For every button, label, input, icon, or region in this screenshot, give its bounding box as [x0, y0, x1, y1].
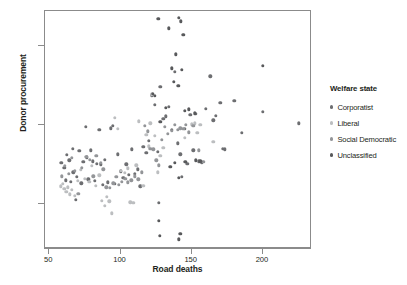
data-point — [77, 192, 80, 195]
data-point — [153, 94, 156, 97]
data-point — [105, 195, 108, 198]
data-point — [70, 156, 73, 159]
data-point — [189, 113, 192, 116]
data-point — [180, 175, 183, 178]
data-point — [80, 166, 83, 169]
data-point — [63, 164, 66, 167]
data-point — [159, 154, 162, 157]
data-point — [183, 109, 186, 112]
legend-item-unclassified[interactable]: Unclassified — [330, 147, 407, 163]
data-point — [107, 200, 110, 203]
data-point — [106, 181, 109, 184]
data-point — [137, 119, 140, 122]
data-point — [60, 174, 63, 177]
data-point — [116, 127, 119, 130]
data-point — [69, 180, 72, 183]
data-point — [233, 99, 236, 102]
x-axis-tick-mark — [120, 249, 121, 254]
data-point — [82, 160, 85, 163]
data-point — [108, 186, 111, 189]
data-point — [134, 163, 137, 166]
data-point — [73, 169, 76, 172]
data-point — [196, 131, 199, 134]
legend-title: Welfare state — [330, 84, 407, 93]
data-point — [71, 147, 74, 150]
data-point — [261, 64, 264, 67]
data-point — [115, 175, 118, 178]
data-point — [179, 20, 182, 23]
legend-item-liberal[interactable]: Liberal — [330, 115, 407, 131]
data-point — [94, 184, 97, 187]
data-point — [65, 153, 68, 156]
x-axis-title: Road deaths — [44, 264, 311, 274]
data-point — [156, 171, 159, 174]
legend-item-corporatist[interactable]: Corporatist — [330, 99, 407, 115]
data-point — [179, 152, 182, 155]
legend-item-social-democratic[interactable]: Social Democratic — [330, 131, 407, 147]
data-point — [201, 160, 204, 163]
legend-item-label: Social Democratic — [337, 135, 396, 144]
data-point — [137, 178, 140, 181]
data-point — [152, 148, 155, 151]
data-point — [117, 183, 120, 186]
data-point — [214, 114, 217, 117]
x-axis-tick-label: 150 — [171, 255, 211, 264]
data-point — [173, 70, 176, 73]
data-point — [130, 148, 133, 151]
data-point — [184, 123, 187, 126]
data-point — [110, 211, 113, 214]
data-point — [153, 134, 156, 137]
data-point — [89, 149, 92, 152]
data-point — [197, 149, 200, 152]
data-point — [180, 68, 183, 71]
data-point — [157, 219, 160, 222]
data-point — [80, 182, 83, 185]
data-point — [68, 193, 71, 196]
data-point — [75, 175, 78, 178]
legend-dot-icon — [330, 105, 333, 108]
data-point — [211, 119, 214, 122]
x-axis-tick-label: 50 — [28, 255, 68, 264]
data-point — [261, 110, 264, 113]
data-point — [140, 171, 143, 174]
data-point — [84, 125, 87, 128]
y-axis-tick-mark — [38, 45, 44, 46]
data-point — [183, 136, 186, 139]
legend: Welfare state CorporatistLiberalSocial D… — [330, 84, 407, 163]
data-point — [167, 105, 170, 108]
data-point — [92, 174, 95, 177]
data-point — [223, 148, 226, 151]
data-point — [177, 237, 180, 240]
data-point — [159, 85, 162, 88]
data-point — [111, 124, 114, 127]
data-point — [124, 177, 127, 180]
data-point — [91, 160, 94, 163]
legend-dot-icon — [330, 153, 333, 156]
data-point — [176, 141, 179, 144]
data-point — [297, 122, 300, 125]
data-point — [164, 115, 167, 118]
data-point — [66, 186, 69, 189]
data-point — [162, 146, 165, 149]
data-point — [67, 172, 70, 175]
scatter-plot-figure: 102030 50100150200 Donor procurement Roa… — [0, 0, 407, 285]
data-point — [209, 75, 212, 78]
data-point — [142, 145, 145, 148]
data-point — [156, 150, 159, 153]
data-point — [144, 133, 147, 136]
data-point — [64, 178, 67, 181]
data-point — [116, 152, 119, 155]
data-point — [167, 27, 170, 30]
data-point — [157, 201, 160, 204]
data-point — [173, 123, 176, 126]
data-point — [125, 163, 128, 166]
data-point — [73, 194, 76, 197]
data-point — [179, 232, 182, 235]
data-point — [129, 178, 132, 181]
legend-dot-icon — [330, 121, 333, 124]
y-axis-tick-mark — [38, 124, 44, 125]
x-axis-tick-label: 100 — [100, 255, 140, 264]
data-point — [187, 130, 190, 133]
x-axis-line — [44, 248, 311, 249]
data-point — [204, 107, 207, 110]
